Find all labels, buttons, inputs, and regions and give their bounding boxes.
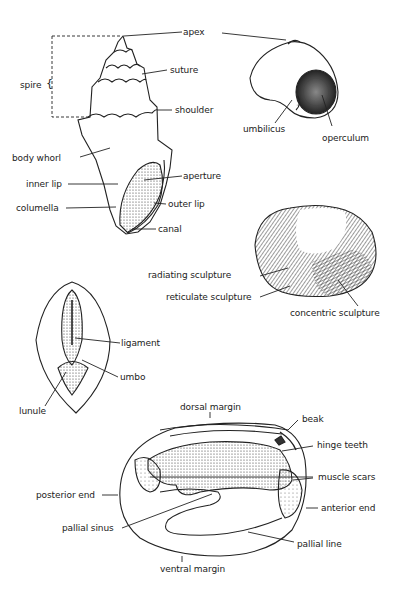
label-ligament: ligament [121, 338, 160, 348]
label-lunule: lunule [19, 406, 46, 416]
label-outer-lip: outer lip [168, 199, 205, 209]
label-pallial-line: pallial line [297, 539, 342, 549]
label-umbilicus: umbilicus [243, 124, 285, 134]
label-beak: beak [302, 414, 324, 424]
label-posterior-end: posterior end [36, 490, 95, 500]
label-inner-lip: inner lip [26, 179, 62, 189]
label-body-whorl: body whorl [12, 153, 61, 163]
label-ventral-margin: ventral margin [160, 564, 225, 574]
spire-brace-icon: { [46, 79, 53, 89]
bivalve-exterior-figure [255, 205, 376, 296]
label-canal: canal [158, 224, 182, 234]
bivalve-dorsal-figure [36, 282, 110, 413]
label-radiating-sculpture: radiating sculpture [148, 270, 231, 280]
label-operculum: operculum [322, 133, 369, 143]
label-shoulder: shoulder [175, 105, 213, 115]
label-apex: apex [183, 27, 205, 37]
label-dorsal-margin: dorsal margin [180, 402, 241, 412]
label-aperture: aperture [183, 171, 221, 181]
label-suture: suture [170, 65, 198, 75]
gastropod-coiled-figure [250, 40, 338, 118]
label-umbo: umbo [120, 372, 145, 382]
label-concentric-sculpture: concentric sculpture [290, 308, 380, 318]
label-pallial-sinus: pallial sinus [62, 523, 114, 533]
label-hinge-teeth: hinge teeth [317, 440, 368, 450]
label-muscle-scars: muscle scars [318, 472, 375, 482]
label-anterior-end: anterior end [321, 503, 375, 513]
shell-anatomy-diagram: apex spire { suture shoulder body whorl … [0, 0, 399, 596]
gastropod-side-figure [52, 36, 172, 234]
bivalve-interior-figure [120, 423, 306, 556]
label-spire: spire [20, 80, 41, 90]
label-reticulate-sculpture: reticulate sculpture [166, 292, 252, 302]
label-columella: columella [16, 203, 59, 213]
